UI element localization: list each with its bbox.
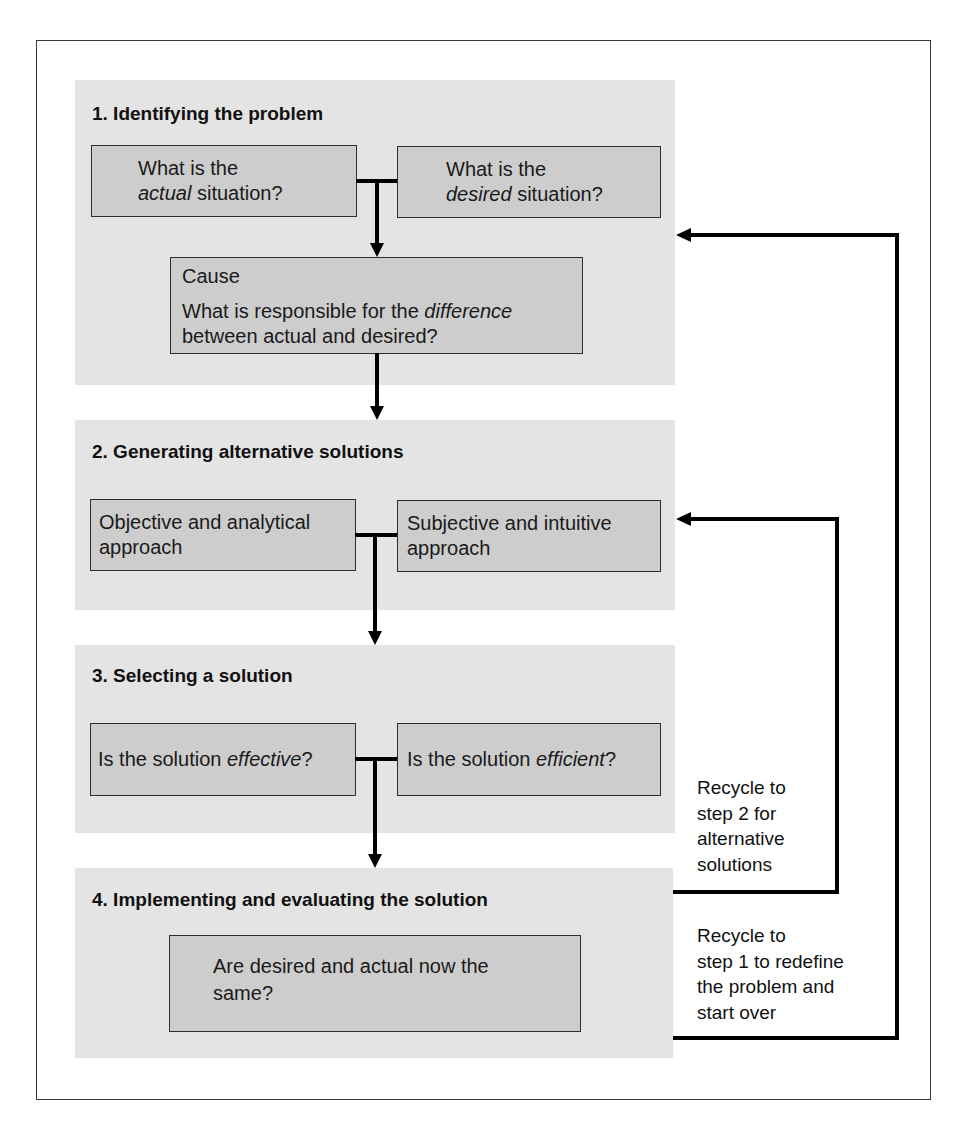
- box-title: Cause: [182, 264, 582, 289]
- emphasis-text: difference: [424, 300, 512, 322]
- section-heading: 2. Generating alternative solutions: [92, 440, 403, 464]
- box-actual-situation: What is the actual situation?: [91, 145, 357, 217]
- emphasis-text: desired: [446, 183, 512, 205]
- box-line: approach: [99, 535, 355, 560]
- note-line: Recycle to: [697, 923, 844, 949]
- box-objective-analytical: Objective and analytical approach: [90, 499, 356, 571]
- note-line: alternative: [697, 826, 786, 852]
- box-desired-situation: What is the desired situation?: [397, 146, 661, 218]
- section-heading: 4. Implementing and evaluating the solut…: [92, 888, 488, 912]
- emphasis-text: efficient: [536, 748, 605, 770]
- box-desired-actual-same: Are desired and actual now the same?: [169, 935, 581, 1032]
- box-subjective-intuitive: Subjective and intuitive approach: [397, 500, 661, 572]
- box-efficient: Is the solution efficient?: [397, 723, 661, 796]
- box-line: approach: [407, 536, 660, 561]
- box-line: What is responsible for the difference: [182, 299, 582, 324]
- box-line: desired situation?: [446, 182, 660, 207]
- box-line: Are desired and actual now the: [213, 953, 580, 980]
- box-text: ?: [605, 748, 616, 770]
- section-heading: 3. Selecting a solution: [92, 664, 293, 688]
- box-line: same?: [213, 980, 580, 1007]
- recycle-to-step1-note: Recycle to step 1 to redefine the proble…: [697, 923, 844, 1025]
- note-line: the problem and: [697, 974, 844, 1000]
- note-line: solutions: [697, 852, 786, 878]
- box-line: Objective and analytical: [99, 510, 355, 535]
- recycle-to-step2-note: Recycle to step 2 for alternative soluti…: [697, 775, 786, 877]
- box-text: Is the solution: [98, 748, 227, 770]
- box-text: ?: [301, 748, 312, 770]
- box-text: situation?: [512, 183, 603, 205]
- box-text: What is responsible for the: [182, 300, 424, 322]
- section-heading: 1. Identifying the problem: [92, 102, 323, 126]
- box-line: actual situation?: [138, 181, 356, 206]
- box-effective: Is the solution effective?: [90, 723, 356, 796]
- note-line: Recycle to: [697, 775, 786, 801]
- note-line: step 1 to redefine: [697, 949, 844, 975]
- box-text: Is the solution: [407, 748, 536, 770]
- box-line: What is the: [446, 157, 660, 182]
- box-line: Subjective and intuitive: [407, 511, 660, 536]
- box-line: What is the: [138, 156, 356, 181]
- emphasis-text: effective: [227, 748, 301, 770]
- box-line: Is the solution efficient?: [407, 747, 616, 772]
- emphasis-text: actual: [138, 182, 191, 204]
- note-line: step 2 for: [697, 801, 786, 827]
- box-text: situation?: [191, 182, 282, 204]
- box-line: Is the solution effective?: [98, 747, 313, 772]
- box-cause: Cause What is responsible for the differ…: [170, 257, 583, 354]
- box-line: between actual and desired?: [182, 324, 582, 349]
- note-line: start over: [697, 1000, 844, 1026]
